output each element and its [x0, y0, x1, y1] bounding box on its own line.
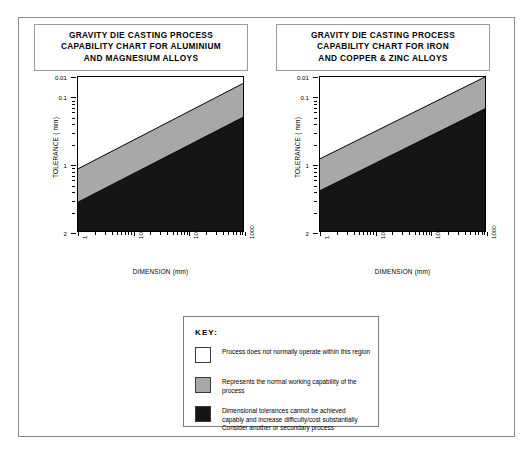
x-tick-label: 10 [137, 232, 144, 239]
x-tick-minor [95, 232, 96, 235]
key-description-line: Represents the normal working capability… [222, 378, 357, 387]
y-tick-minor [72, 172, 75, 173]
key-item-black: Dimensional tolerances cannot be achieve… [195, 406, 358, 433]
page-frame: GRAVITY DIE CASTING PROCESS CAPABILITY C… [18, 17, 515, 437]
y-tick-minor [72, 201, 75, 202]
chart-title-line-3: AND COPPER & ZINC ALLOYS [279, 53, 487, 64]
x-tick-minor [426, 232, 427, 235]
chart-title-box-left: GRAVITY DIE CASTING PROCESS CAPABILITY C… [34, 24, 248, 71]
x-tick-minor [423, 232, 424, 235]
x-tick-minor [367, 232, 368, 235]
y-tick-mark [71, 77, 76, 78]
capability-bands-right [320, 77, 485, 231]
x-tick-minor [409, 232, 410, 235]
key-description: Represents the normal working capability… [222, 377, 357, 395]
chart-title-line-2: CAPABILITY CHART FOR IRON [279, 41, 487, 52]
plot-area-left: TOLERANCE ( mm) 210.10.01 1101001000 DIM… [27, 72, 264, 302]
y-tick-minor [72, 180, 75, 181]
x-tick-minor [429, 232, 430, 235]
x-tick-minor [131, 232, 132, 235]
y-tick-minor [72, 176, 75, 177]
plot-area-right: TOLERANCE ( mm) 210.10.01 1101001000 DIM… [269, 72, 506, 302]
x-tick-minor [419, 232, 420, 235]
y-tick-mark [313, 77, 318, 78]
x-tick-minor [458, 232, 459, 235]
y-tick-minor [72, 118, 75, 119]
x-tick-minor [354, 232, 355, 235]
x-tick-minor [242, 232, 243, 235]
y-tick-minor [72, 186, 75, 187]
y-tick-minor [72, 108, 75, 109]
chart-title-line-1: GRAVITY DIE CASTING PROCESS [279, 30, 487, 41]
x-tick-minor [128, 232, 129, 235]
y-tick-mark [71, 233, 76, 234]
y-tick-minor [314, 213, 317, 214]
key-heading: KEY: [195, 328, 218, 337]
key-description-line: Process does not normally operate within… [222, 348, 370, 357]
chart-title-box-right: GRAVITY DIE CASTING PROCESS CAPABILITY C… [276, 24, 490, 71]
key-item-white: Process does not normally operate within… [195, 347, 370, 363]
key-description-line: capably and increase difficulty/cost sub… [222, 416, 358, 425]
y-tick-minor [72, 112, 75, 113]
x-tick-minor [373, 232, 374, 235]
x-tick-minor [150, 232, 151, 235]
y-tick-minor [72, 213, 75, 214]
x-tick-minor [478, 232, 479, 235]
plot-canvas-left [77, 76, 244, 232]
x-tick-minor [160, 232, 161, 235]
y-tick-minor [72, 145, 75, 146]
y-tick-minor [314, 192, 317, 193]
x-tick-label: 100 [192, 229, 199, 239]
y-tick-mark [313, 97, 318, 98]
x-axis-label-left: DIMENSION (mm) [77, 268, 244, 275]
y-tick-minor [72, 133, 75, 134]
x-tick-mark [320, 232, 321, 236]
y-tick-minor [314, 101, 317, 102]
x-tick-minor [236, 232, 237, 235]
key-description-line: Dimensional tolerances cannot be achieve… [222, 407, 358, 416]
x-tick-minor [121, 232, 122, 235]
x-tick-mark [376, 232, 377, 236]
y-tick-minor [314, 124, 317, 125]
x-tick-mark [189, 232, 190, 236]
x-tick-minor [470, 232, 471, 235]
key-description-line: Consider another or secondary process [222, 424, 358, 433]
x-tick-label: 1 [81, 236, 88, 239]
chart-aluminium-magnesium: GRAVITY DIE CASTING PROCESS CAPABILITY C… [27, 24, 264, 302]
x-tick-minor [105, 232, 106, 235]
y-tick-minor [314, 201, 317, 202]
key-swatch-white [195, 347, 211, 363]
y-tick-minor [314, 108, 317, 109]
x-tick-minor [415, 232, 416, 235]
y-tick-mark [71, 165, 76, 166]
x-tick-minor [475, 232, 476, 235]
x-tick-minor [347, 232, 348, 235]
y-tick-minor [314, 145, 317, 146]
plot-canvas-right [319, 76, 486, 232]
x-tick-mark [431, 232, 432, 236]
x-tick-minor [233, 232, 234, 235]
x-tick-label: 1 [323, 236, 330, 239]
y-tick-minor [314, 104, 317, 105]
key-description-line: process [222, 387, 357, 396]
x-axis-ticks-left: 1101001000 [77, 232, 244, 242]
x-tick-mark [78, 232, 79, 236]
x-tick-minor [448, 232, 449, 235]
chart-title-line-1: GRAVITY DIE CASTING PROCESS [37, 30, 245, 41]
x-tick-minor [484, 232, 485, 235]
y-tick-mark [313, 233, 318, 234]
y-tick-minor [72, 104, 75, 105]
x-tick-minor [359, 232, 360, 235]
x-tick-minor [240, 232, 241, 235]
x-tick-minor [187, 232, 188, 235]
y-tick-minor [72, 101, 75, 102]
y-tick-minor [72, 168, 75, 169]
y-tick-minor [314, 180, 317, 181]
x-tick-minor [465, 232, 466, 235]
x-tick-minor [117, 232, 118, 235]
y-tick-minor [314, 118, 317, 119]
capability-bands-left [78, 77, 243, 231]
x-tick-minor [125, 232, 126, 235]
y-tick-mark [71, 97, 76, 98]
key-description: Dimensional tolerances cannot be achieve… [222, 406, 358, 433]
